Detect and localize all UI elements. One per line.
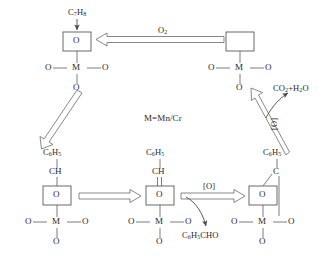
atom-metal-bottom-center: M: [155, 217, 163, 226]
atom-metal-bottom-right: M: [258, 217, 266, 226]
atom-right-oxygen-bottom-right: O: [288, 217, 295, 226]
atom-left-oxygen-bottom-right: O: [231, 217, 238, 226]
metal-symbol-bottom-right: M: [258, 216, 266, 226]
label-active-oxygen-diagonal: [O]: [270, 118, 279, 130]
oxygen-symbol-top-right-west: O: [208, 62, 215, 72]
atom-metal-top-left: M: [72, 63, 80, 72]
label-phenyl-bottom-center: C6H5: [146, 148, 164, 157]
atom-left-oxygen-top-right: O: [208, 63, 215, 72]
atom-right-oxygen-bottom-left: O: [82, 217, 89, 226]
phenyl-formula-bottom-right: C6H5: [263, 147, 281, 157]
atom-box-oxygen-bottom-left: O: [53, 190, 60, 199]
metal-symbol-bottom-center: M: [155, 216, 163, 226]
arrow-bottomcenter-to-bottomright-shape: [181, 190, 245, 203]
label-toluene-feed: C7H8: [68, 8, 86, 17]
oxygen-symbol-bottom-left-box: O: [53, 189, 60, 199]
label-deep-oxidation-products: CO2+H2O: [273, 84, 309, 93]
phenyl-formula-bottom-left: C6H5: [43, 147, 61, 157]
oxygen-symbol-bottom-center-south: O: [156, 236, 163, 246]
methine-symbol-bottom-center: CH: [152, 166, 165, 176]
methine-symbol-bottom-left: CH: [49, 166, 62, 176]
label-active-oxygen-horizontal: [O]: [203, 182, 215, 191]
oxygen-symbol-bottom-right-west: O: [231, 216, 238, 226]
benzaldehyde-formula: C6H5CHO: [182, 230, 219, 240]
atom-bottom-oxygen-top-left: O: [73, 83, 80, 92]
bond-carbon-to-oxygen-bottom-right: [263, 174, 272, 186]
atom-box-oxygen-bottom-right: O: [259, 190, 266, 199]
label-benzaldehyde-product: C6H5CHO: [182, 231, 219, 240]
deep-oxidation-formula: CO2+H2O: [273, 83, 309, 93]
label-dioxygen: O2: [158, 26, 167, 35]
atom-left-oxygen-bottom-center: O: [128, 217, 135, 226]
atom-box-oxygen-bottom-center: O: [156, 190, 163, 199]
atom-right-oxygen-top-left: O: [102, 63, 109, 72]
site-box-top-right: [226, 32, 254, 51]
oxygen-symbol-bottom-center-west: O: [128, 216, 135, 226]
oxygen-symbol-bottom-left-south: O: [53, 236, 60, 246]
label-metal-identity: M=Mn/Cr: [144, 114, 182, 123]
atom-metal-top-right: M: [235, 63, 243, 72]
oxygen-symbol-bottom-left-east: O: [82, 216, 89, 226]
arrow-bottomcenter-to-bottomright: [181, 190, 245, 203]
reaction-mechanism-diagram: C7H8 O2 M=Mn/Cr CO2+H2O C6H5CHO [O] [O] …: [0, 0, 332, 258]
arrow-topleft-to-bottomleft: [40, 90, 82, 149]
metal-symbol-top-right: M: [235, 62, 243, 72]
label-phenyl-bottom-right: C6H5: [263, 148, 281, 157]
toluene-formula: C7H8: [68, 7, 86, 17]
oxygen-symbol-bottom-right-east: O: [288, 216, 295, 226]
atom-bottom-oxygen-bottom-center: O: [156, 237, 163, 246]
atom-bottom-oxygen-bottom-left: O: [53, 237, 60, 246]
oxygen-symbol-top-right-south: O: [236, 82, 243, 92]
active-oxygen-text-horizontal: [O]: [203, 181, 215, 191]
oxygen-symbol-top-left-west: O: [45, 62, 52, 72]
atom-metal-bottom-left: M: [52, 217, 60, 226]
arrow-topleft-to-bottomleft-shape: [40, 90, 82, 149]
metal-identity-text: M=Mn/Cr: [144, 113, 182, 123]
atom-right-oxygen-bottom-center: O: [185, 217, 192, 226]
atom-box-oxygen-top-left: O: [73, 36, 80, 45]
atom-methine-bottom-left: CH: [49, 167, 62, 176]
oxygen-symbol-bottom-left-west: O: [25, 216, 32, 226]
oxygen-symbol-bottom-center-east: O: [185, 216, 192, 226]
atom-bottom-oxygen-bottom-right: O: [259, 237, 266, 246]
metal-symbol-bottom-left: M: [52, 216, 60, 226]
atom-methine-bottom-center: CH: [152, 167, 165, 176]
oxygen-symbol-bottom-center-box: O: [156, 189, 163, 199]
atom-bottom-oxygen-top-right: O: [236, 83, 243, 92]
oxygen-symbol-top-left-south: O: [73, 82, 80, 92]
dioxygen-formula: O2: [158, 25, 167, 35]
oxygen-symbol-top-left-east: O: [102, 62, 109, 72]
oxygen-symbol-bottom-right-south: O: [259, 236, 266, 246]
arrow-bottomleft-to-bottomcenter: [79, 190, 141, 203]
atom-left-oxygen-top-left: O: [45, 63, 52, 72]
atom-carbon-bottom-right: C: [273, 167, 279, 176]
oxygen-symbol-top-left-box: O: [73, 35, 80, 45]
arrow-bottomleft-to-bottomcenter-shape: [79, 190, 141, 203]
oxygen-symbol-top-right-east: O: [265, 62, 272, 72]
carbon-symbol-bottom-right: C: [273, 166, 279, 176]
atom-left-oxygen-bottom-left: O: [25, 217, 32, 226]
atom-right-oxygen-top-right: O: [265, 63, 272, 72]
metal-symbol-top-left: M: [72, 62, 80, 72]
phenyl-formula-bottom-center: C6H5: [146, 147, 164, 157]
diagram-vector-layer: [0, 0, 332, 258]
label-phenyl-bottom-left: C6H5: [43, 148, 61, 157]
active-oxygen-text-diagonal: [O]: [269, 118, 279, 130]
oxygen-symbol-bottom-right-box: O: [259, 189, 266, 199]
